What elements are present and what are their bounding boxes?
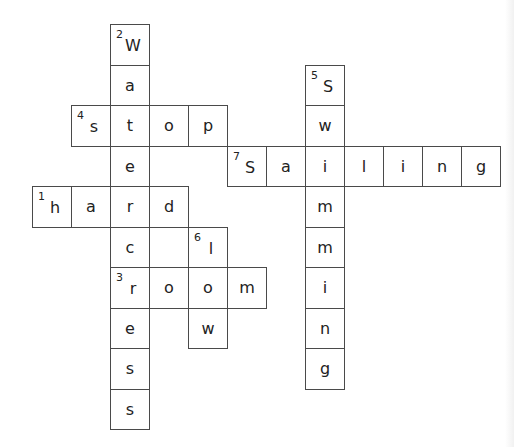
cell-letter: i — [384, 147, 422, 187]
crossword-cell[interactable]: p — [188, 105, 228, 147]
crossword-cell[interactable]: 4s — [71, 105, 111, 147]
crossword-cell[interactable]: o — [149, 105, 189, 147]
cell-letter: i — [306, 268, 344, 308]
cell-letter: l — [189, 228, 227, 268]
crossword-cell[interactable]: l — [344, 146, 384, 188]
crossword-cell[interactable]: o — [188, 267, 228, 309]
crossword-cell[interactable]: n — [422, 146, 462, 188]
crossword-cell[interactable]: s — [110, 348, 150, 390]
cell-letter: s — [111, 390, 149, 430]
cell-letter: a — [111, 66, 149, 106]
crossword-cell[interactable]: r — [110, 186, 150, 228]
cell-letter: a — [267, 147, 305, 187]
cell-letter: o — [189, 268, 227, 308]
cell-letter: o — [150, 268, 188, 308]
cell-letter: w — [189, 309, 227, 349]
cell-letter: a — [72, 187, 110, 227]
crossword-cell[interactable]: d — [149, 186, 189, 228]
crossword-cell[interactable]: t — [110, 105, 150, 147]
crossword-cell[interactable]: i — [383, 146, 423, 188]
crossword-cell[interactable]: 1h — [32, 186, 72, 228]
crossword-cell[interactable]: g — [305, 348, 345, 390]
crossword-cell[interactable]: o — [149, 267, 189, 309]
cell-letter: l — [345, 147, 383, 187]
cell-letter: m — [306, 187, 344, 227]
crossword-cell[interactable]: 5S — [305, 65, 345, 107]
cell-letter: g — [306, 349, 344, 389]
crossword-cell[interactable]: a — [266, 146, 306, 188]
cell-letter: n — [306, 309, 344, 349]
cell-letter: e — [111, 147, 149, 187]
cell-letter: d — [150, 187, 188, 227]
cell-letter: n — [423, 147, 461, 187]
crossword-cell[interactable]: e — [110, 308, 150, 350]
crossword-grid: 2Wa4stope1hardc3roomess6lw5Swimming7Sali… — [0, 0, 514, 447]
crossword-cell[interactable]: m — [227, 267, 267, 309]
crossword-cell[interactable]: 6l — [188, 227, 228, 269]
crossword-cell[interactable]: 7S — [227, 146, 267, 188]
crossword-cell[interactable]: i — [305, 267, 345, 309]
crossword-cell[interactable]: a — [110, 65, 150, 107]
cell-letter: m — [306, 228, 344, 268]
crossword-cell[interactable]: w — [305, 105, 345, 147]
crossword-cell[interactable]: m — [305, 186, 345, 228]
crossword-cell[interactable]: 2W — [110, 24, 150, 66]
cell-letter: m — [228, 268, 266, 308]
cell-letter: S — [228, 147, 266, 187]
cell-letter: r — [111, 268, 149, 308]
crossword-cell[interactable]: 3r — [110, 267, 150, 309]
cell-letter: i — [306, 147, 344, 187]
crossword-cell[interactable]: a — [71, 186, 111, 228]
cell-letter: h — [33, 187, 71, 227]
cell-letter: t — [111, 106, 149, 146]
cell-letter: S — [306, 66, 344, 106]
crossword-cell[interactable]: w — [188, 308, 228, 350]
cell-letter: o — [150, 106, 188, 146]
crossword-cell[interactable]: m — [305, 227, 345, 269]
cell-letter: W — [111, 25, 149, 65]
crossword-cell[interactable]: i — [305, 146, 345, 188]
cell-letter: r — [111, 187, 149, 227]
cell-letter: c — [111, 228, 149, 268]
cell-letter: p — [189, 106, 227, 146]
cell-letter: w — [306, 106, 344, 146]
crossword-cell[interactable]: s — [110, 389, 150, 431]
crossword-cell[interactable]: e — [110, 146, 150, 188]
cell-letter: s — [111, 349, 149, 389]
cell-letter: s — [72, 106, 110, 146]
crossword-cell[interactable]: n — [305, 308, 345, 350]
cell-letter: e — [111, 309, 149, 349]
cell-letter: g — [462, 147, 500, 187]
crossword-cell[interactable]: g — [461, 146, 501, 188]
crossword-cell[interactable]: c — [110, 227, 150, 269]
